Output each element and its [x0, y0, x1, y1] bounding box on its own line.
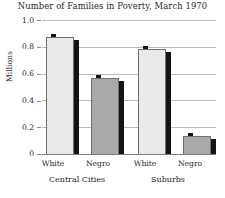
y-tick-mark-0.4 [37, 101, 41, 102]
bar-negro-central-cities [91, 78, 119, 154]
bar-2-shadow [119, 81, 124, 154]
x-label-white-central-cities: White [32, 159, 74, 168]
bar-3-shadow [166, 52, 171, 154]
y-tick-mark-0.6 [37, 74, 41, 75]
plot-area [42, 20, 216, 154]
y-tick-mark-0.2 [37, 127, 41, 128]
x-label-white-suburbs: White [124, 159, 166, 168]
bar-white-central-cities [46, 37, 74, 154]
chart-title: Number of Families in Poverty, March 197… [0, 1, 225, 11]
y-tick-mark-1.0 [37, 20, 41, 21]
bar-1-shadow [74, 40, 79, 154]
y-tick-mark-0.8 [37, 47, 41, 48]
poverty-families-bar-chart: Number of Families in Poverty, March 197… [0, 0, 225, 198]
gridline-1.0 [42, 20, 216, 21]
y-tick-label-0.4: 0.4 [4, 96, 34, 105]
y-tick-label-1.0: 1.0 [4, 16, 34, 25]
x-axis-baseline [42, 154, 216, 155]
bar-white-suburbs [138, 49, 166, 154]
bar-4-shadow [211, 139, 216, 154]
y-tick-label-0: 0 [4, 149, 34, 158]
y-tick-mark-0 [37, 154, 41, 155]
x-label-negro-suburbs: Negro [169, 159, 211, 168]
bar-negro-suburbs [183, 136, 211, 154]
y-tick-label-0.8: 0.8 [4, 42, 34, 51]
x-group-label-central-cities: Central Cities [30, 175, 124, 184]
y-tick-label-0.6: 0.6 [4, 69, 34, 78]
y-tick-label-0.2: 0.2 [4, 123, 34, 132]
x-label-negro-central-cities: Negro [77, 159, 119, 168]
x-group-label-suburbs: Suburbs [124, 175, 212, 184]
